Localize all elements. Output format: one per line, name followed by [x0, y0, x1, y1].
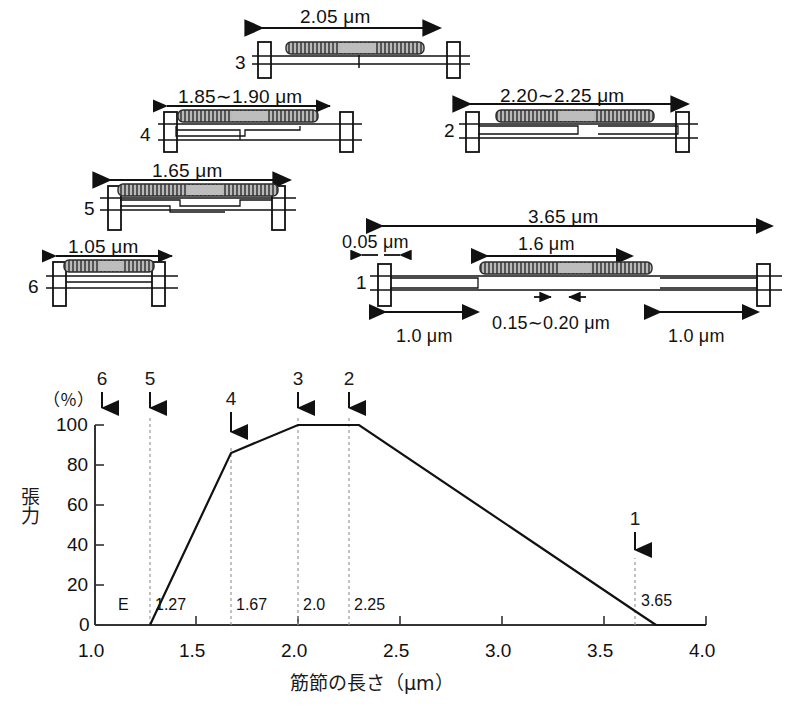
inline-label-2p0: 2.0: [303, 596, 325, 614]
panel-1-sub-left-1p0: 1.0 μm: [396, 326, 453, 347]
panel-2-drawing: [459, 104, 698, 152]
panel-1-sub-0p05: 0.05 μm: [342, 232, 409, 253]
annotation-label-4: 4: [219, 388, 243, 410]
x-tick-2p0: 2.0: [281, 640, 307, 662]
panel-3-number: 3: [235, 52, 246, 74]
panel-1-sub-0p15: 0.15∼0.20 μm: [492, 312, 610, 334]
figure-root: 3 2.05 μm 4 1.85∼1.90 μm 2 2.20∼2.25 μm …: [0, 0, 796, 708]
x-axis-ticks: [95, 616, 706, 625]
panel-1-sub-1p6: 1.6 μm: [518, 234, 575, 255]
panel-1-length-label: 3.65 μm: [528, 206, 598, 228]
x-tick-2p5: 2.5: [383, 640, 409, 662]
panel-1-sub-right-1p0: 1.0 μm: [668, 326, 725, 347]
panel-6-number: 6: [28, 276, 39, 298]
y-axis-title-char-1: 張力: [16, 478, 42, 534]
y-tick-100: 100: [56, 414, 88, 436]
x-tick-3p0: 3.0: [485, 640, 511, 662]
y-axis-ticks: [95, 425, 104, 625]
y-axis-title: 張力: [16, 478, 40, 534]
annotation-arrows: [102, 392, 635, 550]
y-tick-0: 0: [79, 614, 90, 636]
inline-label-1p67: 1.67: [236, 596, 267, 614]
panel-3-length-label: 2.05 μm: [300, 6, 370, 28]
inline-label-2p25: 2.25: [354, 596, 385, 614]
panel-5-drawing: [100, 180, 296, 230]
annotation-label-6: 6: [90, 368, 114, 390]
y-unit-label: （％）: [43, 386, 94, 411]
panel-5-number: 5: [84, 198, 95, 220]
panel-6-drawing: [46, 256, 178, 306]
annotation-label-1: 1: [623, 508, 647, 530]
panel-2-length-label: 2.20∼2.25 μm: [500, 84, 624, 107]
panel-2-number: 2: [444, 120, 455, 142]
sarcomere-diagrams: [0, 0, 796, 360]
x-tick-1p5: 1.5: [179, 640, 205, 662]
annotation-label-5: 5: [138, 368, 162, 390]
panel-4-length-label: 1.85∼1.90 μm: [178, 85, 302, 108]
panel-4-drawing: [158, 106, 362, 152]
x-axis-title: 筋節の長さ（μm）: [290, 668, 454, 695]
panel-3-drawing: [252, 28, 470, 78]
reference-lines: [150, 418, 635, 625]
panel-5-length-label: 1.65 μm: [152, 160, 222, 182]
panel-1-number: 1: [356, 272, 367, 294]
tension-curve: [150, 425, 656, 625]
panel-4-number: 4: [140, 124, 151, 146]
annotation-label-2: 2: [337, 368, 361, 390]
y-tick-60: 60: [67, 494, 88, 516]
y-tick-20: 20: [67, 574, 88, 596]
x-tick-4p0: 4.0: [689, 640, 715, 662]
y-tick-40: 40: [67, 534, 88, 556]
x-tick-3p5: 3.5: [587, 640, 613, 662]
annotation-label-3: 3: [286, 368, 310, 390]
x-tick-1p0: 1.0: [78, 640, 104, 662]
inline-label-1p27: 1.27: [155, 596, 186, 614]
inline-label-3p65: 3.65: [641, 592, 672, 610]
y-tick-80: 80: [67, 454, 88, 476]
inline-label-E: E: [118, 596, 129, 614]
panel-6-length-label: 1.05 μm: [68, 236, 138, 258]
